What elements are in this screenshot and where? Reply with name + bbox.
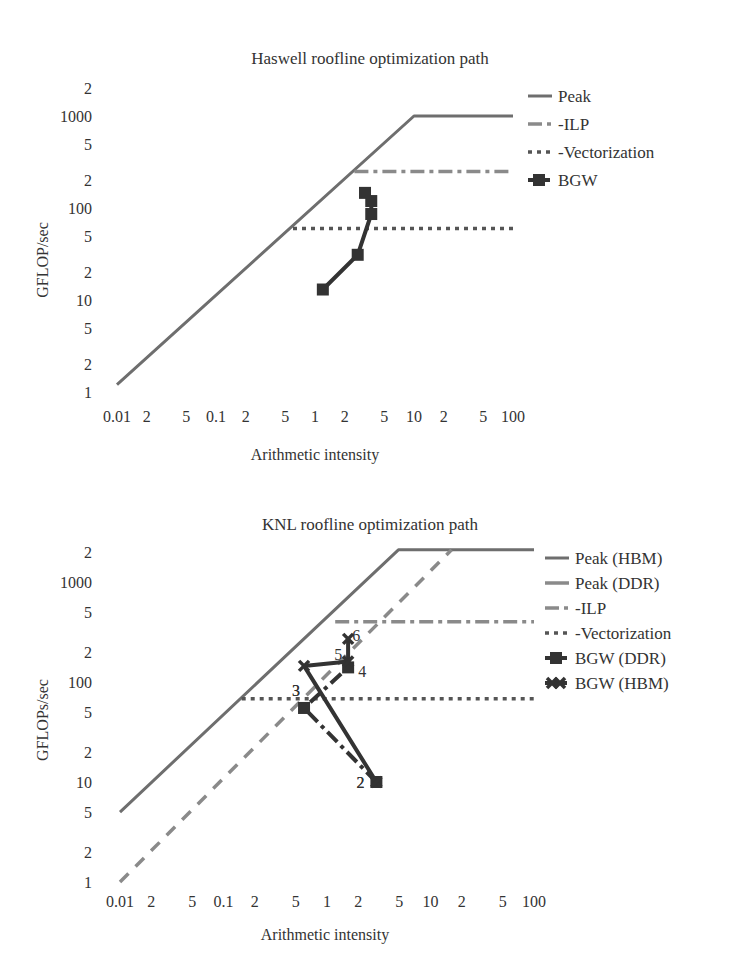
- y-tick-label: 5: [84, 604, 92, 621]
- y-tick-label: 2: [84, 356, 92, 373]
- y-axis-label: GFLOPs/sec: [34, 679, 51, 761]
- y-tick-label: 100: [68, 674, 92, 691]
- point-label: 3: [292, 682, 300, 699]
- legend-label: Peak (HBM): [575, 549, 662, 568]
- series-line-bgw: [323, 193, 372, 290]
- y-tick-label: 2: [84, 644, 92, 661]
- x-tick-label: 5: [182, 408, 190, 425]
- legend-label: BGW (HBM): [575, 674, 669, 693]
- legend: Peak (HBM)Peak (DDR)-ILP-VectorizationBG…: [545, 549, 672, 693]
- x-tick-label: 10: [406, 408, 422, 425]
- y-tick-label: 2: [84, 80, 92, 97]
- y-tick-label: 1: [84, 384, 92, 401]
- knl-chart: KNL roofline optimization path GFLOPs/se…: [34, 515, 672, 944]
- x-tick-label: 2: [242, 408, 250, 425]
- square-marker: [352, 249, 364, 261]
- legend-label: Peak (DDR): [575, 574, 660, 593]
- x-tick-label: 5: [395, 893, 403, 910]
- x-tick-label: 5: [499, 893, 507, 910]
- x-axis-label: Arithmetic intensity: [251, 446, 379, 464]
- x-tick-label: 2: [458, 893, 466, 910]
- legend-label: -ILP: [575, 599, 606, 618]
- square-marker: [298, 702, 310, 714]
- y-tick-label: 5: [84, 704, 92, 721]
- point-label: 2: [356, 774, 364, 791]
- x-tick-label: 5: [292, 893, 300, 910]
- legend-label: Peak: [558, 87, 592, 106]
- legend-item: Peak: [528, 87, 592, 106]
- y-axis-label: GFLOP/sec: [34, 222, 51, 298]
- legend-label: -ILP: [558, 115, 589, 134]
- x-tick-label: 0.01: [106, 893, 134, 910]
- y-tick-label: 2: [84, 264, 92, 281]
- x-axis-ticks: 0.01250.1251251025100: [106, 893, 546, 910]
- legend-item: -Vectorization: [545, 624, 672, 643]
- series-line-peak-hbm: [120, 550, 534, 812]
- legend-item: -Vectorization: [528, 143, 655, 162]
- legend-item: BGW: [528, 171, 599, 190]
- x-tick-label: 2: [143, 408, 151, 425]
- chart-title: KNL roofline optimization path: [262, 515, 479, 534]
- legend-item: BGW (DDR): [545, 649, 666, 668]
- x-tick-label: 5: [479, 408, 487, 425]
- y-tick-label: 2: [84, 844, 92, 861]
- x-tick-label: 1: [323, 893, 331, 910]
- x-tick-label: 2: [147, 893, 155, 910]
- point-label: 5: [334, 646, 342, 663]
- legend-item: -ILP: [528, 115, 589, 134]
- figure: Haswell roofline optimization path GFLOP…: [0, 0, 730, 970]
- y-tick-label: 1000: [60, 574, 92, 591]
- y-tick-label: 1000: [60, 108, 92, 125]
- x-tick-label: 2: [354, 893, 362, 910]
- y-tick-label: 5: [84, 320, 92, 337]
- y-tick-label: 5: [84, 136, 92, 153]
- legend-item: -ILP: [545, 599, 606, 618]
- square-marker: [317, 284, 329, 296]
- chart-title: Haswell roofline optimization path: [251, 49, 489, 68]
- plot-area: [117, 116, 513, 385]
- haswell-chart: Haswell roofline optimization path GFLOP…: [34, 49, 655, 464]
- y-tick-label: 2: [84, 172, 92, 189]
- y-axis-ticks: 12510251002510002: [60, 544, 92, 891]
- x-tick-label: 100: [501, 408, 525, 425]
- y-axis-ticks: 12510251002510002: [60, 80, 92, 401]
- square-marker: [365, 208, 377, 220]
- legend-label: BGW (DDR): [575, 649, 666, 668]
- series-line-peak: [117, 116, 513, 385]
- plot-area: 2342563: [120, 550, 534, 882]
- x-tick-label: 0.1: [214, 893, 234, 910]
- x-tick-label: 5: [281, 408, 289, 425]
- legend-label: BGW: [558, 171, 599, 190]
- legend: Peak-ILP-VectorizationBGW: [528, 87, 655, 190]
- legend-item: Peak (DDR): [545, 574, 660, 593]
- legend-item: Peak (HBM): [545, 549, 662, 568]
- y-tick-label: 1: [84, 874, 92, 891]
- x-tick-label: 100: [522, 893, 546, 910]
- x-tick-label: 10: [423, 893, 439, 910]
- y-tick-label: 100: [68, 200, 92, 217]
- legend-item: BGW (HBM): [545, 674, 669, 693]
- y-tick-label: 2: [84, 744, 92, 761]
- x-tick-label: 1: [311, 408, 319, 425]
- legend-label: -Vectorization: [575, 624, 672, 643]
- x-axis-label: Arithmetic intensity: [261, 926, 389, 944]
- x-tick-label: 0.01: [103, 408, 131, 425]
- point-label: 4: [358, 663, 366, 680]
- y-tick-label: 5: [84, 804, 92, 821]
- x-tick-label: 0.1: [206, 408, 226, 425]
- x-tick-label: 2: [440, 408, 448, 425]
- square-marker: [359, 187, 371, 199]
- series-line-peak-ddr: [120, 550, 452, 882]
- x-tick-label: 2: [251, 893, 259, 910]
- y-tick-label: 10: [76, 774, 92, 791]
- x-tick-label: 5: [380, 408, 388, 425]
- x-axis-ticks: 0.01250.1251251025100: [103, 408, 525, 425]
- point-label: 6: [352, 627, 360, 644]
- y-tick-label: 2: [84, 544, 92, 561]
- x-tick-label: 5: [188, 893, 196, 910]
- y-tick-label: 10: [76, 292, 92, 309]
- legend-label: -Vectorization: [558, 143, 655, 162]
- x-tick-label: 2: [341, 408, 349, 425]
- y-tick-label: 5: [84, 228, 92, 245]
